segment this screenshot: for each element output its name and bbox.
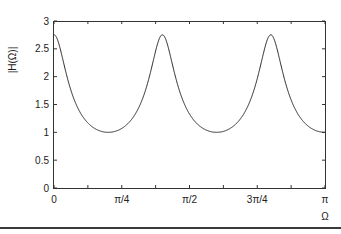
x-tick-label: π [322, 194, 329, 205]
y-tick-label: 1.5 [35, 99, 49, 110]
y-tick-label: 2.5 [35, 43, 49, 54]
magnitude-curve [54, 35, 325, 132]
bottom-divider [0, 227, 341, 229]
y-axis-label: |H(Ω)| [7, 47, 18, 74]
y-axis-ticks: 00.511.522.53 [35, 16, 325, 194]
y-tick-label: 0.5 [35, 155, 49, 166]
magnitude-response-chart: 00.511.522.53 0π/4π/23π/4π |H(Ω)| Ω [0, 0, 341, 234]
plot-frame [54, 22, 326, 189]
x-tick-label: 3π/4 [247, 194, 268, 205]
y-tick-label: 2 [43, 71, 49, 82]
x-axis-label: Ω [321, 211, 329, 222]
y-tick-label: 3 [43, 16, 49, 27]
y-tick-label: 1 [43, 127, 49, 138]
x-tick-label: 0 [51, 194, 57, 205]
x-tick-label: π/4 [114, 194, 130, 205]
x-tick-label: π/2 [182, 194, 198, 205]
x-axis-ticks: 0π/4π/23π/4π [51, 21, 328, 205]
y-tick-label: 0 [43, 183, 49, 194]
